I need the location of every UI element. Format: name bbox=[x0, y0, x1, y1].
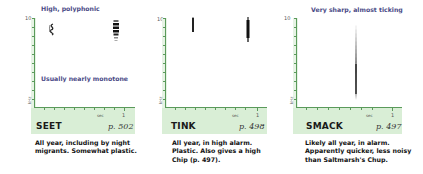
y-tick bbox=[294, 90, 297, 91]
x-tick-label-1: 1 bbox=[391, 112, 394, 118]
x-tick bbox=[306, 107, 307, 110]
call-name-smack: SMACK bbox=[306, 121, 343, 131]
y-tick bbox=[294, 99, 297, 100]
y-axis-unit-label: kHz bbox=[289, 97, 294, 104]
y-tick-label-10: 10 bbox=[284, 15, 290, 21]
page-reference: p. 497 bbox=[376, 122, 401, 131]
y-tick bbox=[294, 18, 297, 19]
caption-line: Apparently quicker, less noisy bbox=[305, 147, 423, 155]
annotation-very-sharp: Very sharp, almost ticking bbox=[311, 6, 403, 13]
spectrogram-note-thin-line bbox=[354, 24, 358, 100]
panel-smack: Very sharp, almost ticking 10 kHz sec 1 … bbox=[0, 0, 423, 174]
y-tick bbox=[294, 36, 297, 37]
x-tick bbox=[392, 107, 393, 111]
caption-line: than Saltmarsh's Chup. bbox=[305, 156, 423, 164]
x-tick bbox=[361, 107, 362, 110]
x-tick bbox=[317, 107, 318, 110]
x-tick bbox=[328, 107, 329, 110]
x-tick bbox=[350, 107, 351, 110]
x-axis-unit-label: sec bbox=[366, 113, 373, 118]
y-tick bbox=[294, 63, 297, 64]
x-axis bbox=[296, 107, 402, 108]
caption: Likely all year, in alarm. Apparently qu… bbox=[305, 139, 423, 164]
x-tick bbox=[339, 107, 340, 110]
y-tick bbox=[294, 81, 297, 82]
x-tick bbox=[372, 107, 373, 110]
y-tick bbox=[294, 54, 297, 55]
y-tick bbox=[294, 72, 297, 73]
y-tick bbox=[294, 45, 297, 46]
caption-line: Likely all year, in alarm. bbox=[305, 139, 423, 147]
y-tick bbox=[294, 27, 297, 28]
